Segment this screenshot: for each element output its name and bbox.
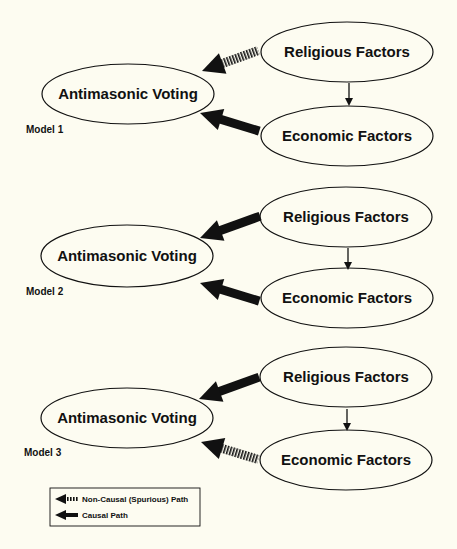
non-causal-arrow-icon bbox=[198, 40, 262, 81]
node-economic-factors: Economic Factors bbox=[261, 268, 433, 328]
model-label: Model 2 bbox=[26, 286, 64, 297]
node-label: Religious Factors bbox=[284, 43, 410, 60]
node-label: Antimasonic Voting bbox=[58, 85, 198, 102]
non-causal-arrow-icon bbox=[55, 494, 78, 504]
causal-arrow-icon bbox=[195, 367, 263, 410]
model-3: Antimasonic Voting Religious Factors Eco… bbox=[24, 347, 432, 490]
node-label: Economic Factors bbox=[281, 451, 411, 468]
legend-label-non-causal: Non-Causal (Spurious) Path bbox=[82, 495, 188, 504]
causal-arrow-icon bbox=[55, 510, 78, 520]
causal-arrow-icon bbox=[197, 272, 263, 311]
node-antimasonic-voting: Antimasonic Voting bbox=[41, 225, 213, 287]
node-religious-factors: Religious Factors bbox=[260, 187, 432, 247]
legend: Non-Causal (Spurious) Path Causal Path bbox=[50, 488, 200, 526]
model-2: Antimasonic Voting Religious Factors Eco… bbox=[26, 187, 433, 328]
node-label: Economic Factors bbox=[282, 127, 412, 144]
causal-arrow-icon bbox=[196, 206, 264, 249]
node-antimasonic-voting: Antimasonic Voting bbox=[42, 64, 214, 124]
node-economic-factors: Economic Factors bbox=[260, 430, 432, 490]
node-label: Antimasonic Voting bbox=[57, 247, 197, 264]
node-economic-factors: Economic Factors bbox=[261, 106, 433, 166]
causal-models-diagram: Antimasonic Voting Religious Factors Eco… bbox=[0, 0, 457, 549]
node-label: Religious Factors bbox=[283, 208, 409, 225]
model-1: Antimasonic Voting Religious Factors Eco… bbox=[26, 22, 433, 166]
node-religious-factors: Religious Factors bbox=[261, 22, 433, 82]
node-label: Economic Factors bbox=[282, 289, 412, 306]
causal-arrow-icon bbox=[197, 102, 263, 141]
node-label: Antimasonic Voting bbox=[57, 409, 197, 426]
node-label: Religious Factors bbox=[283, 368, 409, 385]
model-label: Model 3 bbox=[24, 447, 62, 458]
non-causal-arrow-icon bbox=[198, 431, 262, 470]
node-religious-factors: Religious Factors bbox=[260, 347, 432, 407]
model-label: Model 1 bbox=[26, 124, 64, 135]
node-antimasonic-voting: Antimasonic Voting bbox=[41, 388, 213, 448]
legend-label-causal: Causal Path bbox=[82, 511, 128, 520]
